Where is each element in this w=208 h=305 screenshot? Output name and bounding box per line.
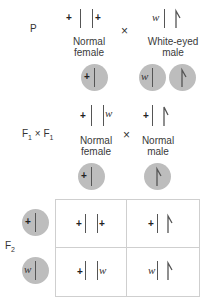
gamete-y [169, 64, 196, 91]
allele-plus: + [76, 218, 82, 229]
allele-plus: + [80, 110, 86, 121]
label-line: Normal [70, 135, 122, 146]
allele-w: w [24, 263, 31, 275]
x-chromosome-icon [35, 261, 36, 280]
y-chromosome-icon [166, 261, 176, 281]
cross-symbol: × [123, 128, 130, 142]
f1-cross-label: F1 × F1 [22, 128, 53, 141]
p-generation-label: P [30, 23, 37, 34]
f1-female-label: Normal female [70, 135, 122, 157]
punnett-divider-horizontal [55, 247, 199, 248]
punnett-square [55, 199, 200, 297]
cross-symbol: × [121, 24, 128, 38]
allele-w: w [148, 264, 155, 276]
allele-w: w [141, 70, 148, 82]
allele-w: w [99, 264, 106, 276]
x-chromosome-icon [91, 167, 92, 186]
gamete-x-plus: + [81, 64, 108, 91]
x-chromosome-icon [157, 261, 158, 280]
x-chromosome-icon [164, 9, 165, 28]
label-sub: 1 [28, 134, 32, 141]
x-chromosome-icon [152, 105, 153, 126]
allele-w: w [152, 11, 159, 23]
x-chromosome-icon [152, 68, 153, 87]
label-line: male [138, 146, 178, 157]
allele-w: w [105, 107, 112, 119]
allele-plus: + [25, 216, 31, 227]
y-chromosome-icon [174, 9, 184, 29]
label-line: female [70, 146, 122, 157]
row-gamete-x-plus: + [22, 209, 49, 236]
x-chromosome-icon [80, 9, 81, 28]
gamete-y [144, 163, 171, 190]
x-chromosome-icon [92, 9, 93, 28]
cross-symbol: × [35, 128, 41, 139]
label-line: female [60, 47, 118, 58]
label-sub: 1 [50, 134, 54, 141]
allele-plus: + [143, 110, 149, 121]
y-chromosome-icon [166, 214, 176, 234]
label-line: Normal [60, 36, 118, 47]
allele-plus: + [77, 266, 83, 277]
allele-plus: + [84, 71, 90, 82]
x-chromosome-icon [91, 105, 92, 126]
allele-plus: + [148, 218, 154, 229]
allele-plus: + [66, 12, 72, 23]
allele-plus: + [99, 218, 105, 229]
p-male-label: White-eyed male [138, 36, 208, 58]
x-chromosome-icon [157, 214, 158, 233]
gamete-x-w: w [139, 64, 166, 91]
label-sub: 2 [11, 246, 15, 253]
label-line: male [138, 47, 208, 58]
x-chromosome-icon [85, 214, 86, 233]
label-line: White-eyed [138, 36, 208, 47]
f1-male-label: Normal male [138, 135, 178, 157]
y-chromosome-icon [155, 167, 165, 187]
allele-plus: + [95, 12, 101, 23]
gamete-x-plus: + [78, 163, 105, 190]
p-female-label: Normal female [60, 36, 118, 58]
x-chromosome-icon [35, 213, 36, 232]
allele-plus: + [81, 170, 87, 181]
y-chromosome-icon [162, 105, 172, 127]
f2-generation-label: F2 [5, 240, 15, 253]
label-line: Normal [138, 135, 178, 146]
row-gamete-x-w: w [22, 257, 49, 284]
y-chromosome-icon [180, 68, 190, 88]
x-chromosome-icon [94, 68, 95, 87]
x-chromosome-icon [85, 261, 86, 280]
